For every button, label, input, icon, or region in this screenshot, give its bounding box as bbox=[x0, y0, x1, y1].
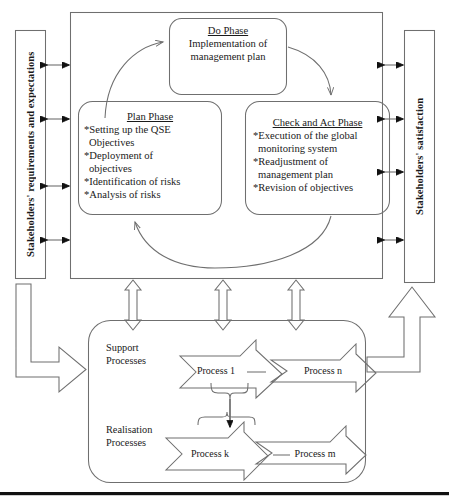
brace-support-bottom bbox=[211, 383, 248, 399]
cycle-arrow-plan-to-do bbox=[105, 42, 163, 118]
realisation-processes-label: Realisation Processes bbox=[106, 424, 196, 450]
vertical-double-arrow-1 bbox=[125, 280, 141, 330]
left-link-arrows bbox=[47, 65, 69, 240]
cycle-arrow-do-to-check bbox=[288, 47, 331, 95]
cycle-arrow-check-to-plan bbox=[135, 216, 331, 268]
brace-realisation-top bbox=[198, 412, 255, 425]
management-system-frame bbox=[71, 13, 383, 279]
check-act-phase-box bbox=[246, 102, 390, 215]
diagram-vector-layer bbox=[0, 0, 449, 504]
vertical-double-arrow-3 bbox=[288, 280, 304, 330]
right-link-arrows bbox=[384, 65, 403, 240]
plan-phase-box bbox=[79, 102, 222, 215]
right-stakeholder-label: Stakeholders' satisfaction bbox=[405, 31, 434, 281]
system-to-process-arrows bbox=[125, 280, 304, 330]
chevron-process-m bbox=[256, 426, 366, 474]
support-processes-label: Support Processes bbox=[106, 342, 186, 368]
bottom-rule-bar bbox=[0, 492, 449, 495]
left-stakeholder-label: Stakeholders' requirements and expectati… bbox=[16, 31, 45, 277]
output-block-arrow bbox=[367, 287, 435, 372]
input-block-arrow bbox=[16, 284, 86, 392]
do-phase-box bbox=[170, 19, 287, 95]
chevron-process-n bbox=[271, 344, 376, 392]
chevron-process-1 bbox=[180, 340, 282, 398]
diagram-canvas: Stakeholders' requirements and expectati… bbox=[0, 0, 449, 504]
vertical-double-arrow-2 bbox=[215, 280, 231, 330]
